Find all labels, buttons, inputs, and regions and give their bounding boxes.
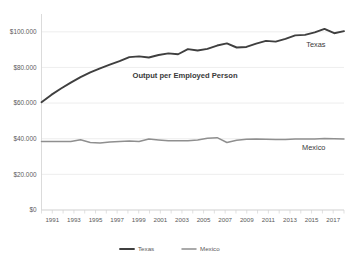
x-tick-label: 2003 [175,216,189,223]
x-tick-label: 2007 [218,216,232,223]
x-tick-label: 1991 [45,216,59,223]
line-chart: $0$20.000$40.000$60.000$80.000$100.000 1… [0,0,352,263]
chart-background [0,0,352,263]
series-label-mexico: Mexico [302,143,325,152]
y-tick-label: $20.000 [13,171,37,178]
x-tick-label: 2011 [262,216,276,223]
x-tick-label: 2009 [240,216,254,223]
x-tick-label: 1993 [67,216,81,223]
y-tick-label: $0 [29,206,37,213]
y-tick-label: $100.000 [10,28,37,35]
y-tick-label: $60.000 [13,99,37,106]
chart-annotation: Output per Employed Person [132,71,237,80]
x-tick-label: 2001 [153,216,167,223]
x-tick-label: 2017 [326,216,340,223]
x-tick-label: 1999 [132,216,146,223]
x-tick-label: 2005 [197,216,211,223]
y-tick-label: $40.000 [13,135,37,142]
chart-container: $0$20.000$40.000$60.000$80.000$100.000 1… [0,0,352,263]
x-tick-label: 1997 [110,216,124,223]
series-label-texas: Texas [306,40,326,49]
x-tick-label: 2013 [283,216,297,223]
legend-label-mexico: Mexico [200,245,220,252]
legend-label-texas: Texas [138,245,154,252]
x-tick-label: 2015 [305,216,319,223]
x-tick-label: 1995 [89,216,103,223]
y-tick-label: $80.000 [13,64,37,71]
